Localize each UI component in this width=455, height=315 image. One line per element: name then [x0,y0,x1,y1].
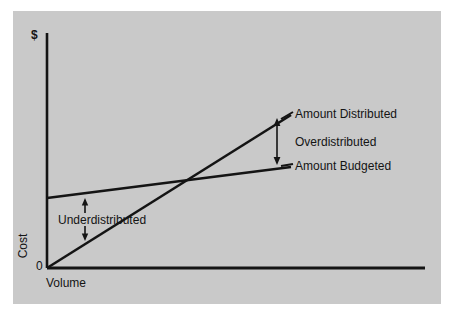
origin-label: 0 [36,260,43,272]
chart-figure: $ 0 Cost Volume Amount Distributed Overd… [0,0,455,315]
overdistributed-arrow [274,118,281,165]
y-axis-title: Cost [17,221,29,271]
amount-budgeted-leader [281,164,293,166]
overdistributed-label: Overdistributed [295,136,376,148]
x-axis-title: Volume [46,277,86,289]
underdistributed-arrow-upper [82,198,88,213]
underdistributed-arrow-lower [82,226,88,241]
y-axis-currency-symbol: $ [31,29,38,41]
amount-distributed-label: Amount Distributed [295,108,397,120]
chart-plot-area [0,0,455,315]
amount-budgeted-label: Amount Budgeted [295,160,391,172]
amount-distributed-line [47,115,291,268]
amount-budgeted-line [47,167,291,198]
underdistributed-label: Underdistributed [58,214,146,226]
